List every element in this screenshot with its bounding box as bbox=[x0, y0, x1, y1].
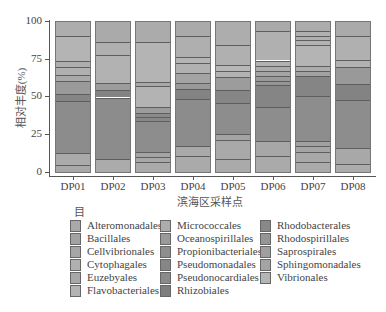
y-tick-label-100: 100 bbox=[16, 14, 42, 26]
legend-label: Rhodospirillales bbox=[277, 232, 349, 244]
y-tick bbox=[45, 172, 49, 173]
bar-segment bbox=[216, 90, 250, 103]
y-tick bbox=[45, 59, 49, 60]
x-axis-line bbox=[49, 176, 376, 177]
legend-label: Bacillales bbox=[87, 232, 130, 244]
bar-segment bbox=[256, 141, 290, 156]
bar-segment bbox=[256, 156, 290, 173]
bar-dp06 bbox=[255, 21, 291, 173]
bar-segment bbox=[96, 90, 130, 98]
bar-segment bbox=[336, 100, 370, 148]
bar-segment bbox=[136, 107, 170, 112]
bar-dp07 bbox=[295, 21, 331, 173]
legend-swatch bbox=[260, 259, 271, 271]
bar-segment bbox=[176, 99, 210, 146]
legend-label: Saprospirales bbox=[277, 245, 336, 257]
bar-segment bbox=[256, 31, 290, 60]
bar-segment bbox=[96, 22, 130, 42]
bar-segment bbox=[96, 83, 130, 90]
bar-segment bbox=[296, 162, 330, 173]
bar-segment bbox=[136, 117, 170, 121]
y-tick bbox=[45, 21, 49, 22]
bar-dp05 bbox=[215, 21, 251, 173]
bar-segment bbox=[256, 85, 290, 106]
bar-segment bbox=[296, 66, 330, 71]
legend-swatch bbox=[160, 220, 171, 232]
legend-label: Vibrionales bbox=[277, 271, 328, 283]
bar-segment bbox=[176, 63, 210, 74]
bar-segment bbox=[216, 103, 250, 134]
legend-swatch bbox=[260, 272, 271, 284]
legend-label: Alteromonadales bbox=[87, 219, 162, 231]
bar-segment bbox=[296, 71, 330, 76]
bar-segment bbox=[296, 36, 330, 41]
bar-segment bbox=[136, 42, 170, 82]
bar-segment bbox=[296, 146, 330, 152]
legend-swatch bbox=[70, 220, 81, 232]
legend-label: Euzebyales bbox=[87, 271, 137, 283]
legend-label: Sphingomonadales bbox=[277, 258, 361, 270]
bar-segment bbox=[336, 148, 370, 164]
bar-segment bbox=[216, 159, 250, 173]
bar-segment bbox=[96, 159, 130, 173]
y-tick-label-50: 50 bbox=[16, 89, 42, 101]
bar-segment bbox=[336, 67, 370, 84]
bar-segment bbox=[176, 36, 210, 57]
legend-label: Pseudonocardiales bbox=[177, 271, 259, 283]
legend-swatch bbox=[160, 272, 171, 284]
bar-segment bbox=[56, 61, 90, 67]
y-tick-label-75: 75 bbox=[16, 52, 42, 64]
legend-label: Propionibacteriales bbox=[177, 245, 262, 257]
legend-title: 目 bbox=[74, 203, 85, 219]
bar-segment bbox=[256, 66, 290, 71]
legend-label: Oceanospirillales bbox=[177, 232, 253, 244]
bar-segment bbox=[96, 98, 130, 159]
bar-segment bbox=[56, 165, 90, 173]
bar-segment bbox=[336, 60, 370, 68]
y-tick bbox=[45, 96, 49, 97]
bar-segment bbox=[296, 96, 330, 141]
bar-segment bbox=[136, 113, 170, 118]
bar-segment bbox=[296, 31, 330, 36]
bar-segment bbox=[296, 76, 330, 96]
legend-swatch bbox=[160, 285, 171, 297]
bar-segment bbox=[336, 84, 370, 100]
bar-segment bbox=[296, 40, 330, 45]
bar-segment bbox=[136, 82, 170, 87]
bar-segment bbox=[176, 89, 210, 99]
bar-segment bbox=[176, 146, 210, 157]
legend-swatch bbox=[160, 259, 171, 271]
bar-segment bbox=[136, 152, 170, 157]
legend-label: Cellvibrionales bbox=[87, 245, 154, 257]
bar-segment bbox=[256, 76, 290, 81]
bar-segment bbox=[136, 157, 170, 162]
bar-dp08 bbox=[335, 21, 371, 173]
bar-segment bbox=[56, 94, 90, 101]
bar-segment bbox=[56, 153, 90, 165]
bar-segment bbox=[216, 134, 250, 140]
bar-segment bbox=[216, 45, 250, 65]
bar-segment bbox=[256, 107, 290, 142]
bar-segment bbox=[296, 22, 330, 31]
legend-swatch bbox=[70, 272, 81, 284]
x-tick-label-dp05: DP05 bbox=[213, 180, 253, 192]
y-tick bbox=[45, 134, 49, 135]
bar-segment bbox=[256, 71, 290, 76]
bar-dp02 bbox=[95, 21, 131, 173]
legend-swatch bbox=[70, 285, 81, 297]
x-axis-label: 滨海区采样点 bbox=[150, 193, 270, 209]
bar-segment bbox=[136, 121, 170, 152]
y-axis-line bbox=[49, 20, 50, 177]
bar-segment bbox=[176, 57, 210, 62]
x-tick-label-dp08: DP08 bbox=[333, 180, 373, 192]
y-tick-label-25: 25 bbox=[16, 127, 42, 139]
bar-segment bbox=[216, 71, 250, 77]
bar-segment bbox=[56, 75, 90, 81]
bar-segment bbox=[56, 81, 90, 94]
bar-segment bbox=[216, 22, 250, 45]
bar-segment bbox=[176, 22, 210, 36]
bar-segment bbox=[216, 77, 250, 90]
bar-segment bbox=[296, 45, 330, 65]
legend-label: Rhodobacterales bbox=[277, 219, 350, 231]
bar-dp01 bbox=[55, 21, 91, 173]
